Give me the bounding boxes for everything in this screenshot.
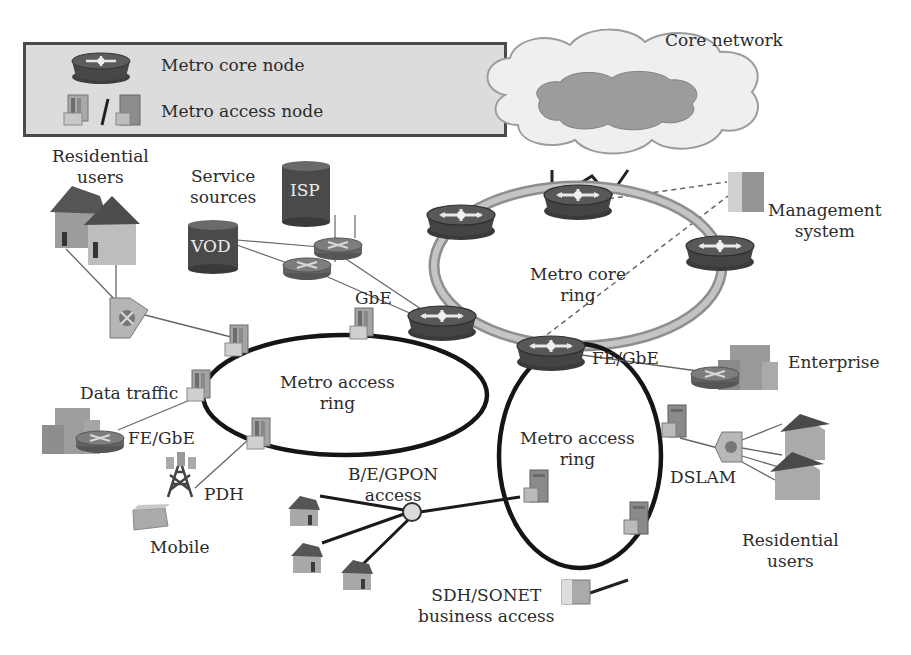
label-sdh-sonet: SDH/SONET business access [418,585,555,627]
cpe-router-icon [110,298,148,338]
label-dslam: DSLAM [670,467,736,488]
residential-house-icon-bottom [770,414,830,500]
management-system-icon [728,172,764,212]
sdh-business-box-icon [562,580,590,604]
mobile-device-icon [133,504,170,530]
metro-network-diagram: Metro core node Metro access node [0,0,911,655]
label-residential-users-bottom: Residential users [742,530,839,572]
label-isp: ISP [290,180,320,201]
pdh-tower-icon [166,452,196,497]
label-bgpon-access: B/E/GPON access [348,464,438,506]
label-fe-gbe-left: FE/GbE [128,428,195,449]
label-metro-access-ring-right: Metro access ring [520,428,635,470]
label-core-network: Core network [665,30,783,51]
label-enterprise: Enterprise [788,352,880,373]
dslam-splitter-icon [715,432,742,462]
label-gbe: GbE [355,288,392,309]
label-residential-users-top: Residential users [52,146,149,188]
label-fe-gbe-right: FE/GbE [592,348,659,369]
label-pdh: PDH [204,484,244,505]
label-data-traffic: Data traffic [80,383,178,404]
label-metro-core-ring: Metro core ring [530,264,626,306]
label-vod: VOD [191,236,231,257]
label-management-system: Management system [768,200,882,242]
label-service-sources: Service sources [190,166,256,208]
label-mobile: Mobile [150,537,209,558]
residential-house-icon-top [50,186,140,265]
label-metro-access-ring-left: Metro access ring [280,372,395,414]
